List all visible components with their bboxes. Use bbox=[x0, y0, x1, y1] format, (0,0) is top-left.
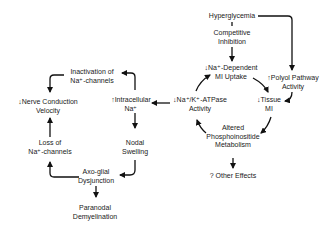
node-label: ↓Na⁺/K⁺-ATPase bbox=[173, 96, 227, 105]
node-label: MI bbox=[257, 105, 281, 114]
node-competitive-inhibition: Competitive Inhibition bbox=[214, 29, 251, 46]
arrow-intracellular-inactivation bbox=[122, 73, 135, 90]
node-label: Metabolism bbox=[206, 141, 259, 150]
node-nodal-swelling: Nodal Swelling bbox=[122, 139, 148, 156]
node-polyol-pathway: ↑Polyol Pathway Activity bbox=[267, 74, 318, 91]
node-label: Dysjunction bbox=[78, 177, 114, 186]
node-label: Loss of bbox=[28, 139, 71, 148]
node-label: Na⁺ bbox=[111, 105, 151, 114]
node-phosphoinositide: Altered Phosphoinositide Metabolism bbox=[206, 124, 259, 150]
node-tissue-mi: ↓Tissue MI bbox=[257, 96, 281, 113]
node-hyperglycemia: Hyperglycemia bbox=[209, 12, 255, 21]
arrow-phospho-atpase bbox=[197, 120, 206, 133]
node-label: ↓Nerve Conduction bbox=[18, 98, 78, 107]
arrow-layer bbox=[0, 0, 334, 233]
node-label: Competitive bbox=[214, 29, 251, 38]
node-paranodal: Paranodal Demyelination bbox=[73, 204, 117, 221]
node-label: Phosphoinositide bbox=[206, 133, 259, 142]
arrow-tissue-phospho bbox=[261, 117, 271, 133]
node-na-dependent-mi-uptake: ↓Na⁺-Dependent MI Uptake bbox=[204, 64, 257, 81]
node-label: Activity bbox=[173, 105, 227, 114]
arrow-inactivation-conduction bbox=[50, 75, 64, 92]
node-label: ↓Tissue bbox=[257, 96, 281, 105]
node-label: ↑Polyol Pathway bbox=[267, 74, 318, 83]
arrow-axoglial-loss bbox=[50, 162, 79, 177]
node-other-effects: ? Other Effects bbox=[210, 172, 257, 181]
node-label: Hyperglycemia bbox=[209, 12, 255, 21]
node-label: Inactivation of bbox=[70, 68, 113, 77]
node-label: Demyelination bbox=[73, 213, 117, 222]
node-label: Swelling bbox=[122, 148, 148, 157]
arrow-polyol-tissue bbox=[285, 92, 292, 101]
node-label: Nodal bbox=[122, 139, 148, 148]
node-na-k-atpase: ↓Na⁺/K⁺-ATPase Activity bbox=[173, 96, 227, 113]
node-label: ↑Intracellular bbox=[111, 96, 151, 105]
node-label: ↓Na⁺-Dependent bbox=[204, 64, 257, 73]
node-axo-glial: Axo-glial Dysjunction bbox=[78, 168, 114, 185]
node-label: Axo-glial bbox=[78, 168, 114, 177]
node-inactivation-na-channels: Inactivation of Na⁺-channels bbox=[70, 68, 113, 85]
node-nerve-conduction: ↓Nerve Conduction Velocity bbox=[18, 98, 78, 115]
node-loss-na-channels: Loss of Na⁺-channels bbox=[28, 139, 71, 156]
node-label: Altered bbox=[206, 124, 259, 133]
arrow-hyper-polyol bbox=[258, 16, 292, 70]
node-label: Na⁺-channels bbox=[28, 148, 71, 157]
node-label: ? Other Effects bbox=[210, 172, 257, 181]
node-intracellular-na: ↑Intracellular Na⁺ bbox=[111, 96, 151, 113]
node-label: Velocity bbox=[18, 107, 78, 116]
node-label: Inhibition bbox=[214, 38, 251, 47]
arrow-nodal-axoglial bbox=[120, 160, 135, 175]
node-label: Na⁺-channels bbox=[70, 77, 113, 86]
node-label: Paranodal bbox=[73, 204, 117, 213]
node-label: MI Uptake bbox=[204, 73, 257, 82]
node-label: Activity bbox=[267, 83, 318, 92]
